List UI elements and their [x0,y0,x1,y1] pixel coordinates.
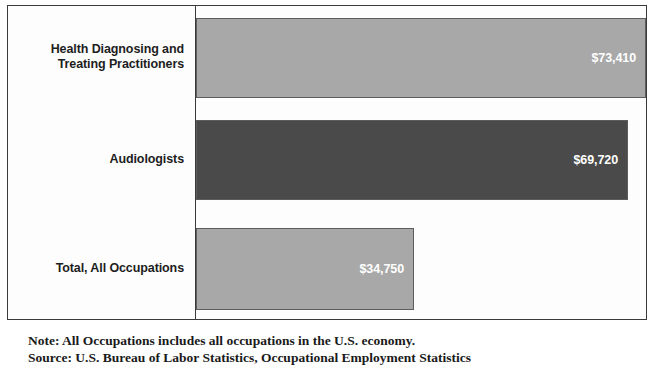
bar-label-line: Health Diagnosing and [8,42,184,57]
bar-health-practitioners[interactable]: $73,410 [196,18,646,98]
bar-label-line: Total, All Occupations [8,261,184,276]
footnote-source: Source: U.S. Bureau of Labor Statistics,… [28,349,628,366]
bar-row: Total, All Occupations $34,750 [8,228,646,310]
footnote-note: Note: All Occupations includes all occup… [28,332,628,349]
bar-label-audiologists: Audiologists [8,152,184,167]
bar-value-audiologists: $69,720 [574,153,628,167]
bar-label-line: Treating Practitioners [8,57,184,72]
bar-label-total-all-occupations: Total, All Occupations [8,261,184,276]
bar-value-total-all-occupations: $34,750 [360,262,414,276]
bar-total-all-occupations[interactable]: $34,750 [196,228,414,310]
plot-area: Health Diagnosing and Treating Practitio… [8,6,646,319]
bar-value-health-practitioners: $73,410 [592,51,646,65]
bar-row: Audiologists $69,720 [8,120,646,200]
bar-row: Health Diagnosing and Treating Practitio… [8,18,646,98]
bar-label-health-practitioners: Health Diagnosing and Treating Practitio… [8,42,184,72]
footnotes: Note: All Occupations includes all occup… [28,332,628,366]
bar-label-line: Audiologists [8,152,184,167]
chart-frame: Health Diagnosing and Treating Practitio… [7,5,647,320]
bar-audiologists[interactable]: $69,720 [196,120,628,200]
